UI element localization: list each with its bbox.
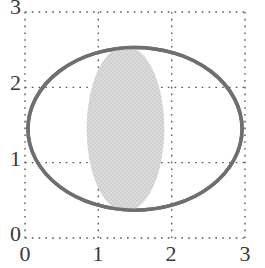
x-tick-label-1: 1 — [86, 243, 110, 265]
y-tick-label-0: 0 — [0, 223, 21, 245]
x-tick-label-2: 2 — [159, 243, 183, 265]
chart-figure: 3 2 1 0 0 1 2 3 — [0, 0, 265, 268]
y-tick-label-3: 3 — [0, 0, 21, 18]
x-tick-label-3: 3 — [233, 243, 257, 265]
y-tick-label-1: 1 — [0, 148, 21, 170]
x-tick-label-0: 0 — [13, 243, 37, 265]
plot-canvas — [0, 0, 265, 268]
y-tick-label-2: 2 — [0, 72, 21, 94]
inner-ellipse — [87, 46, 165, 212]
